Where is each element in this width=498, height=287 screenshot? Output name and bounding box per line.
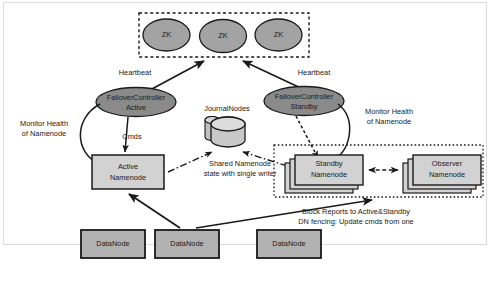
failover-controller-standby: FailoverController Standby [264,87,344,116]
diagram-canvas: ZK ZK ZK Heartbeat Heartbeat FailoverCon… [0,0,498,287]
active-namenode-label-line2: Namenode [110,173,146,182]
datanode-2: DataNode [155,230,219,258]
failover-controller-active-label-line1: FailoverController [107,93,166,102]
zk-node-2-label: ZK [218,31,228,40]
failover-standby-dashed-arrow [296,116,318,158]
shared-state-label-line1: Shared Namenode [209,159,271,168]
zk-node-1-label: ZK [162,30,172,39]
failover-controller-standby-label-line2: Standby [290,102,317,111]
active-namenode: Active Namenode [92,155,164,189]
block-reports-label-line1: Block Reports to Active&Standby [302,207,410,216]
monitor-health-left-label-line1: Monitor Health [20,119,68,128]
zk-node-3: ZK [255,19,302,51]
datanode-3: DataNode [257,230,321,258]
zk-node-3-label: ZK [274,30,284,39]
journalnodes-cylinder: JournalNodes [204,104,250,147]
monitor-health-right-label-line2: of Namenode [367,117,411,126]
zk-node-1: ZK [143,19,190,51]
active-namenode-label-line1: Active [118,162,138,171]
standby-namenode-label-line2: Namenode [311,170,347,179]
cmds-label: Cmds [122,132,142,141]
heartbeat-right-label: Heartbeat [298,68,330,77]
monitor-health-right-label-line1: Monitor Health [365,107,413,116]
datanode-1: DataNode [81,230,145,258]
heartbeat-left-label: Heartbeat [119,68,151,77]
block-reports-label-line2: DN fencing: Update cmds from one [298,217,413,226]
monitor-health-right-arrow [334,104,350,160]
datanode-2-label: DataNode [170,239,203,248]
failover-controller-standby-label-line1: FailoverController [275,92,334,101]
standby-namenode: Standby Namenode [285,155,363,193]
datanode-3-label: DataNode [272,239,305,248]
standby-namenode-label-line1: Standby [315,159,342,168]
block-report-arrow-active [129,194,180,228]
observer-namenode-label-line1: Observer [432,159,463,168]
monitor-health-left-label-line2: of Namenode [22,129,66,138]
failover-controller-active-label-line2: Active [126,103,146,112]
zk-node-2: ZK [200,20,247,53]
datanode-1-label: DataNode [96,239,129,248]
heartbeat-arrow-right [243,61,305,90]
journalnodes-label: JournalNodes [204,104,250,113]
hdfs-ha-architecture-diagram: ZK ZK ZK Heartbeat Heartbeat FailoverCon… [0,0,498,287]
heartbeat-arrow-left [150,61,204,90]
observer-namenode-label-line2: Namenode [429,170,465,179]
failover-controller-active: FailoverController Active [96,88,176,117]
observer-namenode: Observer Namenode [403,155,481,193]
shared-state-label-line2: state with single writer [204,169,277,178]
